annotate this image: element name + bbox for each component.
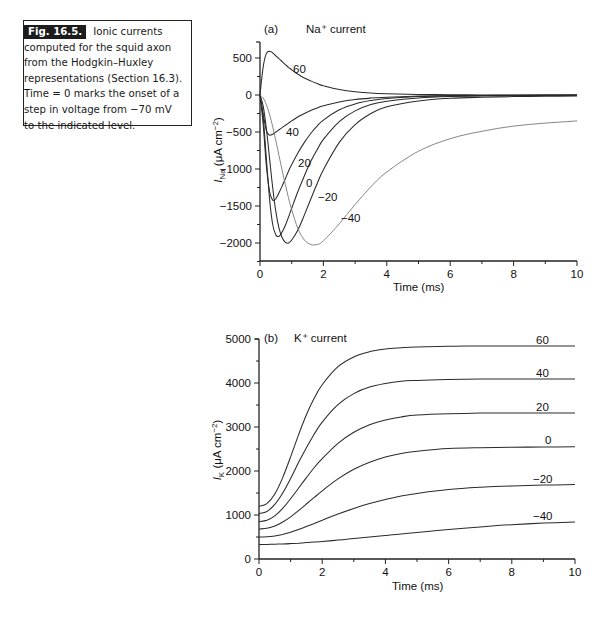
panel-label: (a): [264, 23, 278, 35]
data-series: [260, 51, 577, 245]
curve-label: 0: [306, 177, 312, 189]
chart-panel-na-current: (a) Na⁺ current 5000−500−1000−1500−20000…: [211, 23, 583, 293]
curve-labels: 6040200−20−40: [286, 63, 361, 224]
y-tick-label: 0: [245, 553, 251, 565]
x-tick-label: 2: [319, 566, 325, 578]
axes: 0100020003000400050000246810: [225, 333, 581, 578]
series-line-neg40: [259, 522, 575, 545]
curve-labels: 6040200−20−40: [533, 334, 553, 522]
curve-label: 20: [298, 157, 311, 169]
chart-figure: (a) Na⁺ current 5000−500−1000−1500−20000…: [0, 0, 611, 617]
curve-label: 0: [545, 434, 551, 446]
series-line-0: [259, 447, 575, 529]
x-tick-label: 2: [320, 268, 326, 280]
x-tick-label: 6: [445, 566, 451, 578]
curve-label: 60: [536, 334, 549, 346]
series-line-neg20: [259, 485, 575, 537]
y-tick-label: 500: [233, 52, 252, 64]
y-tick-label: −1500: [220, 200, 252, 212]
chart-title: K⁺ current: [294, 332, 347, 344]
curve-label: 40: [286, 126, 299, 138]
series-line-60: [260, 51, 577, 95]
curve-label: −40: [341, 212, 361, 224]
y-tick-label: −2000: [220, 237, 252, 249]
chart-panel-k-current: (b) K⁺ current 0100020003000400050000246…: [210, 332, 581, 592]
y-axis-label: INa (μA cm−2): [211, 117, 227, 183]
x-tick-label: 4: [382, 566, 389, 578]
y-tick-label: 5000: [225, 333, 251, 345]
x-axis-label: Time (ms): [392, 580, 443, 592]
x-tick-label: 4: [384, 268, 391, 280]
x-axis-label: Time (ms): [393, 281, 444, 293]
y-tick-label: 3000: [225, 421, 251, 433]
curve-label: 40: [536, 367, 549, 379]
series-line-neg40: [260, 95, 577, 245]
x-tick-label: 0: [256, 566, 262, 578]
series-line-60: [259, 346, 575, 506]
curve-label: −20: [318, 191, 338, 203]
y-tick-label: −500: [226, 126, 252, 138]
curve-label: 60: [293, 63, 306, 75]
series-line-20: [259, 413, 575, 522]
curve-label: −20: [533, 473, 553, 485]
curve-label: 20: [536, 401, 549, 413]
x-tick-label: 10: [571, 268, 584, 280]
x-tick-label: 10: [569, 566, 582, 578]
y-tick-label: 0: [246, 89, 252, 101]
panel-label: (b): [264, 332, 278, 344]
x-tick-label: 8: [510, 268, 516, 280]
chart-title: Na⁺ current: [306, 23, 366, 35]
y-tick-label: 1000: [225, 509, 251, 521]
y-axis-label: IK (μA cm−2): [210, 419, 226, 480]
y-tick-label: 2000: [225, 465, 251, 477]
x-tick-label: 0: [257, 268, 263, 280]
x-tick-label: 8: [509, 566, 515, 578]
y-tick-label: 4000: [225, 377, 251, 389]
x-tick-label: 6: [447, 268, 453, 280]
curve-label: −40: [533, 510, 553, 522]
data-series: [259, 346, 575, 545]
